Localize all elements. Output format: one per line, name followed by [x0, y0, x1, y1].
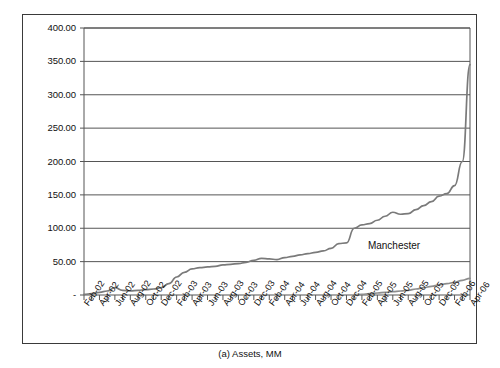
y-axis-label: 300.00 — [30, 89, 76, 100]
y-axis-label: 100.00 — [30, 222, 76, 233]
y-axis-label: - — [30, 289, 76, 300]
y-axis-label: 150.00 — [30, 189, 76, 200]
y-axis-label: 250.00 — [30, 122, 76, 133]
y-axis-label: 350.00 — [30, 55, 76, 66]
figure-caption: (a) Assets, MM — [0, 348, 500, 359]
y-axis-label: 200.00 — [30, 156, 76, 167]
series-paths-group — [84, 65, 470, 295]
series-line-manchester — [84, 65, 470, 295]
y-axis-label: 400.00 — [30, 22, 76, 33]
figure-panel: 400.00350.00300.00250.00200.00150.00100.… — [0, 0, 500, 368]
gridlines-group — [84, 28, 470, 295]
series-annotation-manchester: Manchester — [368, 240, 420, 251]
y-axis-label: 50.00 — [30, 256, 76, 267]
chart-plot-area: 400.00350.00300.00250.00200.00150.00100.… — [22, 14, 477, 344]
